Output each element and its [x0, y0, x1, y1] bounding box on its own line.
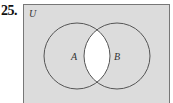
universe-label: U	[29, 8, 37, 19]
set-a-label: A	[70, 51, 78, 62]
set-b-label: B	[114, 51, 120, 62]
venn-diagram: U A B	[0, 0, 173, 103]
